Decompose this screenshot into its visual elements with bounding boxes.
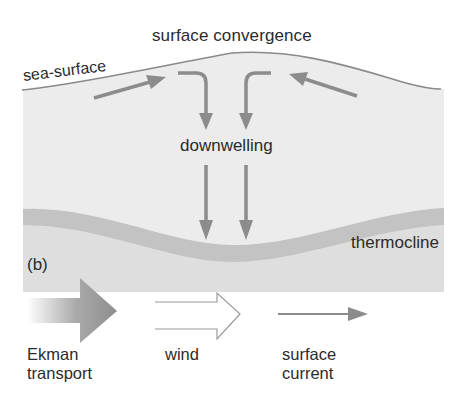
downwelling-label: downwelling [180, 137, 273, 154]
legend-wind: wind [165, 345, 199, 364]
surface-current-arrow-icon [278, 307, 368, 321]
legend-ekman-line1: Ekman [27, 345, 92, 364]
wind-arrow-icon [155, 293, 240, 339]
legend-current-line2: current [282, 364, 336, 383]
thermocline-label: thermocline [351, 234, 439, 251]
panel-label: (b) [27, 256, 48, 273]
surface-convergence-label: surface convergence [152, 27, 312, 44]
legend-ekman-line2: transport [27, 364, 92, 383]
legend-ekman-transport: Ekman transport [27, 345, 92, 383]
legend-current-line1: surface [282, 345, 336, 364]
legend-wind-line1: wind [165, 345, 199, 364]
legend-surface-current: surface current [282, 345, 336, 383]
